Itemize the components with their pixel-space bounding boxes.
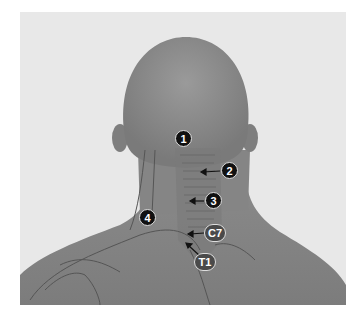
marker-t1: T1 [194,253,216,271]
marker-c7: C7 [204,224,226,242]
marker-2: 2 [221,162,238,179]
marker-3: 3 [205,192,222,209]
head-neck-illustration [20,12,346,305]
marker-1: 1 [175,130,192,147]
marker-4: 4 [139,209,156,226]
anatomy-figure: 1 2 3 4 C7 T1 [20,12,346,305]
